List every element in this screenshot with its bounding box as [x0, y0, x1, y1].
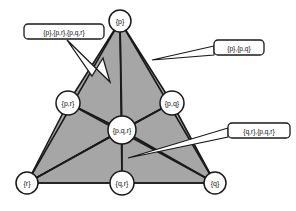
node-top-label: {p} [116, 18, 125, 26]
node-mid-left-label: {p,r} [62, 100, 76, 108]
node-bottom-right-label: {q} [211, 180, 220, 188]
node-bottom-left[interactable]: {r} [16, 172, 38, 194]
leader-upper-right-wedge [152, 46, 214, 60]
callout-upper-left-label: {p},{p,r},{p,q,r} [43, 29, 85, 37]
node-bottom-right[interactable]: {q} [204, 172, 226, 194]
node-mid-right[interactable]: {p,q} [160, 91, 184, 115]
node-center[interactable]: {p,q,r} [108, 116, 136, 144]
node-bottom-mid[interactable]: {q,r} [110, 171, 134, 195]
callout-upper-left[interactable]: {p},{p,r},{p,q,r} [24, 24, 104, 39]
callout-lower-right-label: {q,r},{p,q,r} [243, 128, 275, 136]
node-bottom-mid-label: {q,r} [116, 180, 130, 188]
node-mid-left[interactable]: {p,r} [56, 91, 80, 115]
node-mid-right-label: {p,q} [165, 100, 180, 108]
node-bottom-left-label: {r} [23, 180, 31, 188]
callout-upper-right[interactable]: {p},{p,q} [214, 40, 264, 55]
diagram-figure: {p} {p,r} {p,q} {p,q,r} {r} {q,r} {q} [0, 0, 296, 211]
node-center-label: {p,q,r} [113, 127, 132, 135]
triangle-subdivision-svg: {p} {p,r} {p,q} {p,q,r} {r} {q,r} {q} [0, 0, 296, 211]
callout-upper-right-label: {p},{p,q} [227, 45, 251, 53]
callout-lower-right[interactable]: {q,r},{p,q,r} [228, 123, 290, 138]
leader-upper-right [152, 46, 214, 60]
node-top[interactable]: {p} [109, 10, 131, 32]
